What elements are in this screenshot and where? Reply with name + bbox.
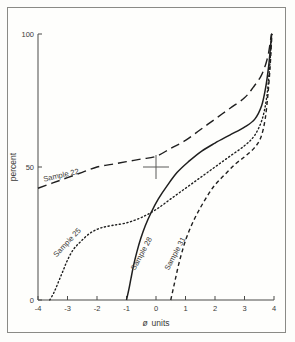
x-tick-label: -4 xyxy=(35,304,42,313)
x-tick-label: -2 xyxy=(94,304,101,313)
x-tick-label: 0 xyxy=(154,304,158,313)
y-axis-title: percent xyxy=(8,152,18,181)
x-tick-label: 2 xyxy=(213,304,217,313)
x-tick-label: 1 xyxy=(183,304,187,313)
y-tick-label: 100 xyxy=(21,30,34,39)
y-tick-label: 50 xyxy=(26,163,34,172)
x-tick-label: -1 xyxy=(123,304,130,313)
x-tick-label: 4 xyxy=(272,304,276,313)
x-axis-title: øunits xyxy=(142,318,169,328)
curve-sample-22 xyxy=(38,34,272,188)
curve-label-sample-28: Sample 28 xyxy=(129,235,154,271)
curve-labels-group: Sample 22Sample 25Sample 28Sample 31 xyxy=(42,167,187,272)
curve-sample-31 xyxy=(171,34,272,300)
x-tick-label: -3 xyxy=(64,304,71,313)
chart-page: -4-3-2-101234050100 Sample 22Sample 25Sa… xyxy=(0,0,295,342)
y-tick-label: 0 xyxy=(30,296,34,305)
x-tick-label: 3 xyxy=(242,304,246,313)
curve-label-sample-31: Sample 31 xyxy=(162,235,187,271)
cumulative-curve-chart: -4-3-2-101234050100 Sample 22Sample 25Sa… xyxy=(0,0,295,342)
curve-label-sample-25: Sample 25 xyxy=(51,226,82,259)
curve-label-sample-22: Sample 22 xyxy=(42,167,79,184)
plot-area: -4-3-2-101234050100 Sample 22Sample 25Sa… xyxy=(0,0,295,342)
